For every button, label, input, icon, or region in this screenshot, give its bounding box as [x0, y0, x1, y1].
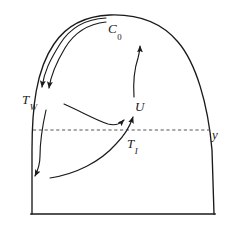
- label-tw-sub: W: [30, 102, 37, 112]
- label-tw-base: T: [22, 92, 29, 107]
- label-c0: C0: [108, 22, 121, 38]
- mid-circulation-arrow: [64, 104, 124, 125]
- diagram-svg: [0, 0, 249, 225]
- wall-downflow-arrow: [35, 110, 46, 176]
- label-tw: TW: [22, 93, 37, 109]
- label-c0-sub: 0: [117, 32, 121, 42]
- label-u: U: [135, 100, 144, 113]
- label-y: y: [212, 128, 218, 141]
- bottom-upflow-arrow: [50, 117, 133, 178]
- label-u-base: U: [135, 99, 144, 114]
- wall-arrow-inner: [49, 22, 106, 88]
- label-ti: TI: [127, 137, 137, 153]
- label-y-base: y: [212, 127, 218, 142]
- label-c0-base: C: [108, 21, 117, 36]
- core-upflow-arrow: [134, 46, 140, 97]
- diagram-canvas: C0 TW U TI y: [0, 0, 249, 225]
- label-ti-base: T: [127, 136, 134, 151]
- label-ti-sub: I: [135, 146, 138, 156]
